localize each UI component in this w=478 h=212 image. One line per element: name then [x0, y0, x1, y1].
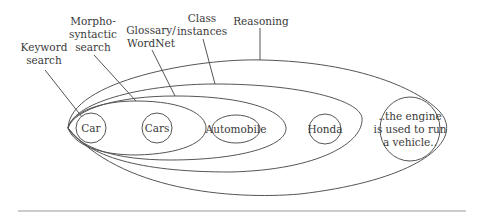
keyword-label-line1: Keyword: [21, 41, 68, 53]
class-label-line1: Class: [188, 12, 216, 24]
keyword-label-line2: search: [26, 54, 62, 66]
morpho-label-line1: Morpho-: [70, 15, 116, 27]
keyword-leader: [45, 70, 82, 117]
glossary-label-line2: WordNet: [127, 37, 176, 49]
honda-label: Honda: [307, 123, 342, 135]
morpho-label-line3: search: [75, 41, 111, 53]
engine-label-line2: is used to run: [374, 123, 447, 135]
morpho-label-line2: syntactic: [69, 28, 117, 40]
class-leader: [203, 39, 215, 84]
engine-label-line3: a vehicle..: [383, 136, 437, 148]
reasoning-label: Reasoning: [233, 15, 289, 27]
engine-label-line1: ..the engine: [378, 110, 441, 122]
search-levels-diagram: Car Cars Automobile Honda ..the engine i…: [0, 0, 478, 212]
automobile-label: Automobile: [205, 123, 267, 135]
morpho-leader: [94, 55, 136, 101]
glossary-label-line1: Glossary/: [126, 24, 176, 36]
class-label-line2: instances: [177, 25, 227, 37]
car-label: Car: [81, 122, 101, 134]
cars-label: Cars: [145, 122, 170, 134]
glossary-leader: [152, 50, 175, 96]
